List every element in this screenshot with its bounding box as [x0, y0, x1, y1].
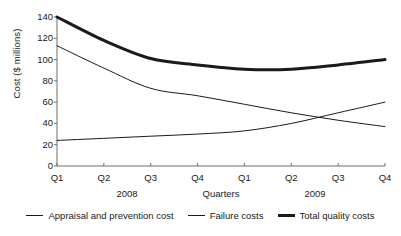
legend-label: Appraisal and prevention cost [48, 210, 173, 221]
x-tick-label: Q4 [183, 172, 213, 183]
x-tick-label: Q3 [136, 172, 166, 183]
legend-label: Failure costs [210, 210, 264, 221]
legend-line-icon [188, 215, 205, 216]
series-paths [57, 17, 385, 140]
x-group-label-2008: 2008 [97, 188, 157, 199]
x-group-label-2009: 2009 [285, 188, 345, 199]
series-line [57, 46, 385, 127]
legend-item[interactable]: Appraisal and prevention cost [26, 210, 173, 221]
x-tick-label: Q4 [370, 172, 400, 183]
x-tick-label: Q2 [276, 172, 306, 183]
legend-item[interactable]: Total quality costs [278, 210, 375, 221]
series-line [57, 17, 385, 70]
legend-label: Total quality costs [300, 210, 375, 221]
chart-legend: Appraisal and prevention costFailure cos… [0, 210, 401, 221]
series-line [57, 102, 385, 140]
x-tick-label: Q1 [42, 172, 72, 183]
legend-line-icon [26, 215, 43, 216]
axis-lines [57, 17, 385, 166]
legend-line-icon [278, 214, 295, 217]
x-tick-label: Q1 [229, 172, 259, 183]
quality-cost-line-chart: Cost ($ millions) 020406080100120140 Q1Q… [0, 0, 401, 236]
x-tick-label: Q3 [323, 172, 353, 183]
plot-area [0, 0, 401, 236]
x-tick-label: Q2 [89, 172, 119, 183]
legend-item[interactable]: Failure costs [188, 210, 264, 221]
x-axis-title: Quarters [181, 188, 261, 199]
